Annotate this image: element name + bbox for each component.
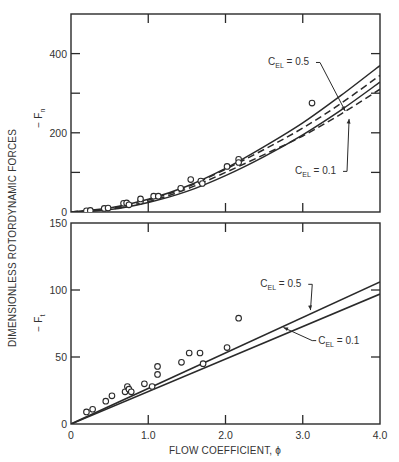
shared-y-axis-label: DIMENSIONLESS ROTORDYNAMIC FORCES	[7, 129, 18, 347]
data-point	[126, 202, 132, 208]
x-tick-label: 1.0	[141, 429, 156, 441]
bottom-panel-tangential-force: 05010015001.02.03.04.0CEL = 0.5CEL = 0.1	[49, 217, 387, 441]
data-point	[128, 389, 134, 395]
data-point	[105, 205, 111, 211]
data-point	[186, 350, 192, 356]
data-point	[138, 196, 144, 202]
series-line	[71, 294, 380, 424]
data-point	[200, 181, 206, 187]
y-tick-label: 400	[49, 48, 67, 60]
data-point	[197, 350, 203, 356]
x-tick-label: 2.0	[218, 429, 233, 441]
rotordynamic-forces-figure: 0200400CEL = 0.5CEL = 0.1 05010015001.02…	[0, 0, 399, 462]
bottom-y-axis-label: − Ft	[33, 314, 46, 331]
data-point	[309, 100, 315, 106]
x-axis-label: FLOW COEFFICIENT, ϕ	[169, 445, 281, 456]
arrowhead-icon	[347, 119, 351, 124]
data-point	[155, 372, 161, 378]
y-tick-label: 50	[55, 351, 67, 363]
annotation-leader	[343, 119, 349, 171]
data-point	[155, 364, 161, 370]
arrowhead-icon	[283, 327, 288, 331]
y-tick-label: 200	[49, 127, 67, 139]
x-tick-label: 4.0	[373, 429, 388, 441]
curve-annotation: CEL = 0.5	[260, 278, 302, 291]
data-point	[84, 409, 90, 415]
plot-frame	[71, 223, 380, 424]
x-tick-label: 3.0	[295, 429, 310, 441]
y-tick-label: 150	[49, 217, 67, 229]
top-panel-normal-force: 0200400CEL = 0.5CEL = 0.1	[49, 14, 380, 218]
data-point	[236, 315, 242, 321]
data-point	[90, 406, 96, 412]
data-point	[188, 177, 194, 183]
data-point	[142, 381, 148, 387]
data-point	[224, 345, 230, 351]
annotation-leader	[283, 328, 316, 341]
x-tick-label: 0	[68, 429, 74, 441]
series-line	[71, 65, 380, 212]
data-point	[109, 393, 115, 399]
data-point	[224, 164, 230, 170]
curve-annotation: CEL = 0.1	[318, 335, 360, 348]
curve-annotation: CEL = 0.1	[295, 165, 337, 178]
data-point	[178, 185, 184, 191]
series-line	[71, 282, 380, 424]
data-point	[236, 160, 242, 166]
data-point	[149, 384, 155, 390]
y-tick-label: 100	[49, 284, 67, 296]
data-point	[155, 193, 161, 199]
data-point	[103, 398, 109, 404]
top-y-axis-label: − Fn	[33, 108, 46, 127]
data-point	[200, 361, 206, 367]
y-tick-label: 0	[61, 418, 67, 430]
series-line	[71, 75, 380, 212]
plot-frame	[71, 14, 380, 212]
data-point	[179, 360, 185, 366]
curve-annotation: CEL = 0.5	[268, 56, 310, 69]
